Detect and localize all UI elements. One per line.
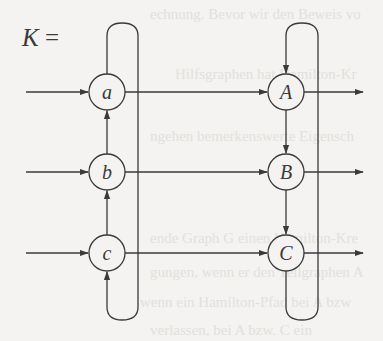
node-a-label: a: [102, 81, 112, 103]
node-c-label: c: [103, 242, 112, 264]
node-C-label: C: [279, 242, 293, 264]
node-b-label: b: [102, 161, 112, 183]
node-B-label: B: [280, 161, 292, 183]
graph-diagram: a b c A B C: [0, 0, 383, 341]
node-A-label: A: [278, 81, 293, 103]
